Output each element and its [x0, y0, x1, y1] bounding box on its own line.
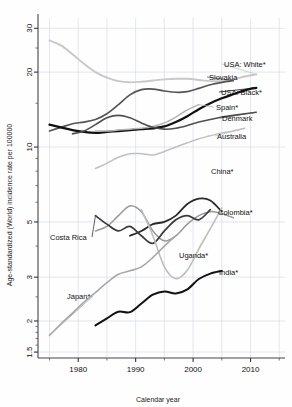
svg-text:5: 5 — [26, 219, 35, 224]
series-label: Denmark — [222, 114, 253, 123]
series-labels: USA: White*SlovakiaUSA: Black*Spain*Denm… — [50, 60, 266, 301]
leader-line — [92, 216, 95, 237]
chart-figure: 1.52351020301980199020002010 USA: White*… — [0, 0, 292, 407]
line-chart: 1.52351020301980199020002010 USA: White*… — [0, 0, 292, 407]
series-label: Japan* — [67, 292, 90, 301]
grid-lines — [38, 18, 285, 358]
series-label: Spain* — [216, 103, 238, 112]
series-label: Australia — [217, 132, 247, 141]
axis-ticks — [34, 28, 279, 362]
series-label: China* — [211, 167, 234, 176]
svg-text:20: 20 — [26, 67, 35, 76]
svg-text:1.5: 1.5 — [26, 346, 35, 358]
svg-text:2010: 2010 — [242, 365, 260, 374]
x-axis-title: Calendar year — [136, 396, 181, 404]
series-line — [49, 236, 175, 336]
y-axis-title: Age-standardized (World) incidence rate … — [6, 124, 14, 287]
series-label: USA: Black* — [221, 88, 262, 97]
series-label: Colombia* — [218, 208, 253, 217]
leader-line — [49, 296, 93, 335]
series-label: Slovakia — [209, 73, 238, 82]
series-label: India* — [219, 268, 238, 277]
svg-text:2: 2 — [26, 318, 35, 323]
svg-text:2000: 2000 — [184, 365, 202, 374]
series-line — [130, 198, 222, 235]
svg-text:1980: 1980 — [69, 365, 87, 374]
series-label: Uganda* — [179, 251, 208, 260]
series-line — [95, 271, 221, 326]
svg-text:10: 10 — [26, 142, 35, 151]
svg-text:3: 3 — [26, 274, 35, 279]
series-label: Costa Rica — [50, 233, 88, 242]
svg-text:30: 30 — [26, 23, 35, 32]
series-label: USA: White* — [224, 60, 266, 69]
svg-text:1990: 1990 — [127, 365, 145, 374]
